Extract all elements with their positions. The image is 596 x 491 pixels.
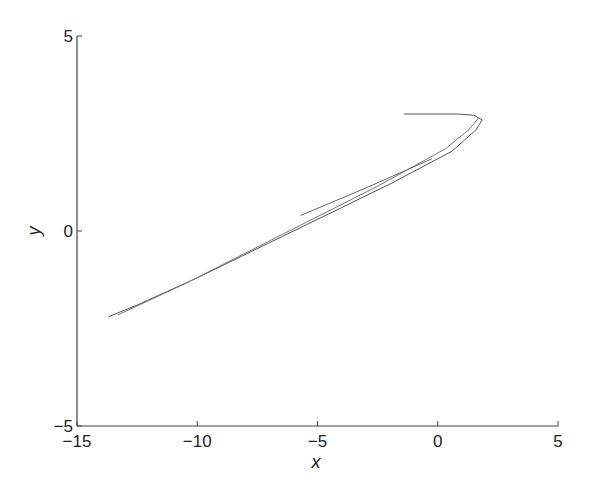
tick-labels: −15−10−505−505 [54, 27, 563, 451]
y-tick-label: −5 [54, 417, 73, 436]
x-tick-label: −10 [183, 432, 212, 451]
series-line-trajectory-inner [118, 118, 479, 315]
y-tick-label: 0 [64, 222, 73, 241]
series-line-trajectory-branch-upper [301, 159, 432, 216]
y-tick-label: 5 [64, 27, 73, 46]
data-series [108, 114, 482, 317]
ticks [77, 36, 558, 426]
x-tick-label: 5 [553, 432, 562, 451]
x-axis-label: x [311, 452, 322, 472]
chart: −15−10−505−505 x y [0, 0, 596, 491]
x-tick-label: 0 [433, 432, 442, 451]
series-line-trajectory-main [108, 114, 482, 317]
y-axis-label: y [24, 226, 44, 238]
x-tick-label: −5 [308, 432, 327, 451]
